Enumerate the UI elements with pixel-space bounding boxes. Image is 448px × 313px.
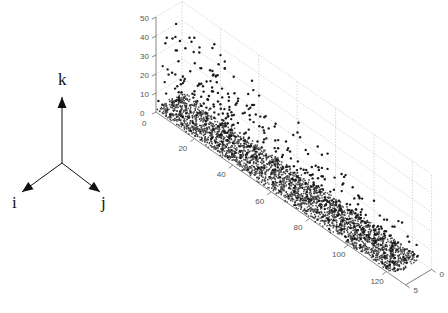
- tick-labels: 0102030405002040608010012005: [140, 14, 445, 295]
- i-label: i: [12, 193, 17, 212]
- x-tick-label: 20: [178, 144, 187, 153]
- axis-triad: k i j: [12, 70, 106, 212]
- scatter3d-figure: k i j 0102030405002040608010012005: [0, 0, 448, 313]
- scatter-points: [157, 23, 419, 272]
- j-arrowhead-icon: [89, 182, 100, 192]
- x-tick-label: 40: [217, 170, 226, 179]
- j-label: j: [100, 193, 106, 212]
- z-tick-label: 30: [140, 52, 149, 61]
- i-arrowhead-icon: [22, 182, 34, 192]
- x-tick-label: 120: [370, 277, 384, 286]
- k-arrowhead-icon: [58, 97, 67, 108]
- z-tick-label: 10: [140, 90, 149, 99]
- k-label: k: [58, 70, 67, 89]
- z-tick-label: 50: [140, 14, 149, 23]
- x-tick-label: 80: [294, 223, 303, 232]
- z-tick-label: 20: [140, 71, 149, 80]
- z-tick-label: 40: [140, 33, 149, 42]
- y-tick-label: 0: [440, 270, 445, 279]
- y-tick-label: 0: [142, 119, 147, 128]
- y-tick-label: 5: [414, 286, 419, 295]
- x-tick-label: 60: [255, 197, 264, 206]
- x-tick-label: 100: [332, 250, 346, 259]
- z-tick-label: 0: [140, 109, 145, 118]
